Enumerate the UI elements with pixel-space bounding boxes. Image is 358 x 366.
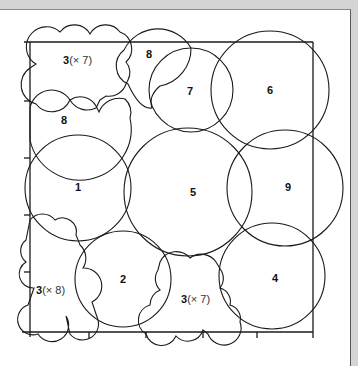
label-circle-6: 6 [267,84,273,96]
circle-packing-diagram: 1 2 4 5 6 7 9 8 8 3(× 7) 3(× 8) 3(× 7) [0,0,358,366]
labels: 1 2 4 5 6 7 9 8 8 3(× 7) 3(× 8) 3(× 7) [36,48,291,305]
label-region-8-left: 8 [61,114,67,126]
label-cluster-3-lower-left: 3(× 8) [36,284,65,296]
cluster-multiplicity: (× 7) [69,54,92,66]
label-region-8-top: 8 [146,48,152,60]
label-circle-4: 4 [272,272,279,284]
label-cluster-3-upper: 3(× 7) [63,54,92,66]
label-circle-5: 5 [190,186,196,198]
label-circle-7: 7 [187,85,193,97]
region-8-top [116,29,191,108]
circle-5 [124,128,252,256]
label-cluster-3-bottom: 3(× 7) [181,293,210,305]
cluster-multiplicity: (× 8) [42,284,65,296]
label-circle-1: 1 [75,181,81,193]
label-circle-2: 2 [120,273,126,285]
label-circle-9: 9 [285,181,291,193]
cluster-multiplicity: (× 7) [187,293,210,305]
